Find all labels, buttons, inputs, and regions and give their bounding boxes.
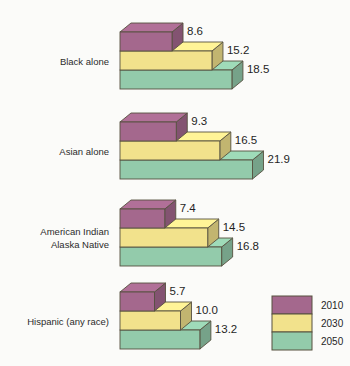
value-label: 7.4 xyxy=(180,202,197,214)
category-label: Black alone xyxy=(60,56,109,67)
value-label: 8.6 xyxy=(187,25,203,37)
legend-label: 2010 xyxy=(321,300,344,311)
category-label: Alaska Native xyxy=(51,239,109,250)
bar-2010 xyxy=(120,23,183,51)
value-label: 14.5 xyxy=(223,221,245,233)
legend-swatch xyxy=(272,314,312,332)
value-label: 16.8 xyxy=(237,240,259,252)
category-label: American Indian xyxy=(40,226,109,237)
value-label: 13.2 xyxy=(215,323,237,335)
value-label: 16.5 xyxy=(235,134,257,146)
legend-swatch xyxy=(272,332,312,350)
bar-2010 xyxy=(120,283,165,311)
value-label: 9.3 xyxy=(191,115,207,127)
legend-swatch xyxy=(272,296,312,314)
value-label: 21.9 xyxy=(267,153,289,165)
value-label: 15.2 xyxy=(227,44,249,56)
chart-legend[interactable]: 201020302050 xyxy=(272,296,344,350)
bar-2010 xyxy=(120,113,187,141)
value-label: 5.7 xyxy=(169,285,185,297)
legend-label: 2030 xyxy=(321,318,344,329)
chart-canvas: Black aloneAsian aloneAmerican IndianAla… xyxy=(0,0,350,366)
category-label: Asian alone xyxy=(59,146,109,157)
bar-2010 xyxy=(120,200,176,228)
stepped-bar-chart: Black aloneAsian aloneAmerican IndianAla… xyxy=(0,0,350,366)
category-label: Hispanic (any race) xyxy=(27,316,109,327)
value-label: 18.5 xyxy=(247,63,269,75)
value-label: 10.0 xyxy=(196,304,218,316)
legend-label: 2050 xyxy=(321,336,344,347)
